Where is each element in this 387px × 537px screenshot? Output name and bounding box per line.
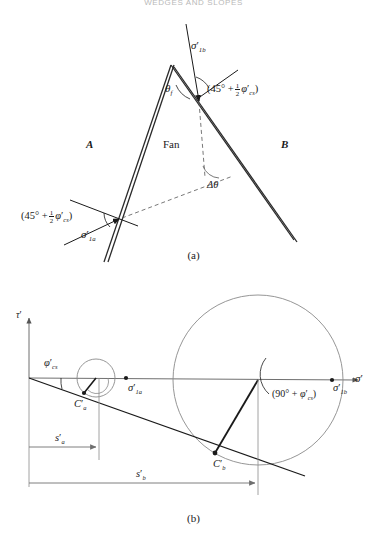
pole-angle-label: (90° + φ′cs) (272, 389, 316, 401)
center-b-point (213, 451, 218, 456)
sigma-1a-label-b: σ′1a (128, 383, 142, 396)
figure-b-caption: (b) (0, 513, 387, 524)
phi-cs-label: φ′cs (44, 358, 58, 371)
radius-a (84, 378, 96, 393)
center-a-label: C′a (74, 399, 87, 412)
figure-vector-canvas (0, 0, 387, 537)
sigma-axis-label: σ′ (355, 373, 363, 384)
lower-angle-label: (45° +12φ′cs) (21, 209, 72, 224)
s-a-label: s′a (55, 433, 65, 446)
phi-cs-arc (61, 378, 62, 389)
sigma-1b-label-a: σ′1b (191, 40, 206, 54)
figure-a-caption: (a) (0, 250, 387, 261)
center-b-label: C′b (213, 459, 226, 472)
sigma-1a-label-a: σ′1a (81, 229, 96, 243)
wedge-left-face (104, 65, 174, 262)
region-fan-label: Fan (163, 139, 180, 150)
figure-page: WEDGES AND SLOPES (0, 0, 387, 537)
delta-theta-arc (203, 166, 219, 178)
radius-a-angle-arc (88, 378, 109, 394)
failure-envelope (29, 378, 305, 476)
s-b-label: s′b (136, 469, 146, 482)
fan-dashed-vertical (199, 102, 205, 177)
sigma-axis (29, 378, 358, 380)
sigma-1a-point (124, 376, 128, 380)
delta-theta-label: Δθ (207, 180, 218, 191)
region-a-label: A (86, 139, 93, 150)
top-angle-label: (45° +12φ′cs) (207, 82, 258, 97)
wedge-diagram (64, 24, 297, 262)
center-a-point (82, 391, 86, 395)
tau-axis-label: τ′ (16, 310, 22, 320)
sigma-1b-label-b: σ′1b (333, 383, 347, 396)
region-b-label: B (281, 139, 288, 150)
pole-angle-arc (260, 358, 269, 394)
theta-f-label: θf (165, 83, 172, 97)
radius-b (215, 380, 258, 453)
